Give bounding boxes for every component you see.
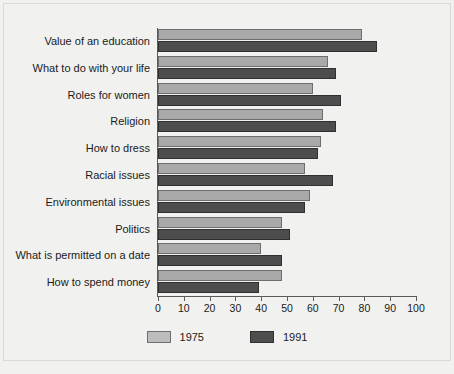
bar-1991 (158, 68, 336, 79)
x-axis-tick-label: 40 (255, 302, 267, 314)
x-axis-tick-label: 60 (307, 302, 319, 314)
x-axis-tick-label: 20 (204, 302, 216, 314)
bar-1975 (158, 217, 282, 228)
bar-group: What is permitted on a date (158, 243, 416, 270)
bar-1975 (158, 83, 313, 94)
bar-1975 (158, 56, 328, 67)
x-axis-tick (261, 296, 262, 301)
x-axis-tick (210, 296, 211, 301)
x-axis-tick (364, 296, 365, 301)
bar-group: What to do with your life (158, 56, 416, 83)
bar-1975 (158, 29, 362, 40)
bar-1975 (158, 163, 305, 174)
category-label: Politics (115, 219, 150, 239)
x-axis-tick (313, 296, 314, 301)
category-label: Roles for women (67, 85, 150, 105)
legend-label-1975: 1975 (180, 331, 204, 343)
x-axis-tick-label: 90 (384, 302, 396, 314)
bar-1975 (158, 109, 323, 120)
x-axis-tick-label: 100 (407, 302, 425, 314)
x-axis-tick-label: 30 (230, 302, 242, 314)
category-label: What to do with your life (33, 58, 150, 78)
category-label: How to spend money (47, 272, 150, 292)
bar-1975 (158, 243, 261, 254)
category-label: Value of an education (44, 31, 150, 51)
bar-1991 (158, 175, 333, 186)
bar-1991 (158, 229, 290, 240)
bar-group: How to dress (158, 136, 416, 163)
chart-legend: 19751991 (0, 331, 454, 343)
legend-label-1991: 1991 (283, 331, 307, 343)
x-axis-tick (287, 296, 288, 301)
bar-1975 (158, 270, 282, 281)
bar-1975 (158, 190, 310, 201)
x-axis-tick (339, 296, 340, 301)
bar-1991 (158, 282, 259, 293)
x-axis-tick-label: 70 (333, 302, 345, 314)
category-label: Religion (110, 111, 150, 131)
bar-group: Racial issues (158, 163, 416, 190)
category-label: What is permitted on a date (15, 245, 150, 265)
x-axis-tick-label: 80 (359, 302, 371, 314)
bar-group: How to spend money (158, 270, 416, 297)
bar-group: Religion (158, 109, 416, 136)
x-axis-tick-label: 0 (155, 302, 161, 314)
x-axis-tick (416, 296, 417, 301)
bar-1975 (158, 136, 321, 147)
x-axis-line: 0102030405060708090100 (158, 296, 416, 297)
legend-swatch-1975 (147, 331, 171, 343)
bar-1991 (158, 255, 282, 266)
bar-1991 (158, 148, 318, 159)
x-axis-tick (158, 296, 159, 301)
bar-group: Value of an education (158, 29, 416, 56)
category-label: How to dress (86, 138, 150, 158)
x-axis-tick (235, 296, 236, 301)
bar-1991 (158, 95, 341, 106)
bar-group: Roles for women (158, 83, 416, 110)
category-label: Racial issues (85, 165, 150, 185)
bar-group: Politics (158, 217, 416, 244)
legend-entry-1975: 1975 (147, 331, 204, 343)
legend-swatch-1991 (250, 331, 274, 343)
bar-group: Environmental issues (158, 190, 416, 217)
bar-1991 (158, 121, 336, 132)
x-axis-tick (184, 296, 185, 301)
plot-area: Value of an educationWhat to do with you… (158, 28, 416, 296)
x-axis-tick-label: 50 (281, 302, 293, 314)
x-axis-tick (390, 296, 391, 301)
x-axis-tick-label: 10 (178, 302, 190, 314)
bar-1991 (158, 41, 377, 52)
chart-figure: Value of an educationWhat to do with you… (0, 0, 454, 374)
y-axis-line (157, 28, 158, 297)
category-label: Environmental issues (45, 192, 150, 212)
bar-1991 (158, 202, 305, 213)
legend-entry-1991: 1991 (250, 331, 307, 343)
